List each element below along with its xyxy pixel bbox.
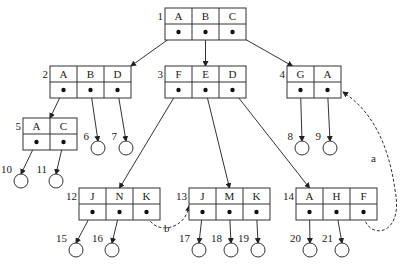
pointer-dot xyxy=(298,88,302,92)
node-key: D xyxy=(229,68,237,80)
leaf-number: 21 xyxy=(322,232,333,244)
pointer-dot xyxy=(144,210,148,214)
pointer-dot xyxy=(230,88,234,92)
node-key: A xyxy=(33,120,41,132)
leaf-21: 21 xyxy=(322,232,349,257)
edge-3-0-to-12 xyxy=(120,90,179,188)
node-key: H xyxy=(333,190,341,202)
node-key: F xyxy=(360,190,366,202)
pointer-dot xyxy=(200,210,204,214)
node-number: 13 xyxy=(176,190,188,202)
leaf-number: 6 xyxy=(84,130,90,142)
node-key: C xyxy=(229,10,236,22)
leaf-16: 16 xyxy=(92,232,119,257)
leaf-10: 10 xyxy=(1,163,28,188)
node-key: A xyxy=(60,68,68,80)
tree-node-1: 1ABC xyxy=(158,8,247,40)
node-key: N xyxy=(116,190,124,202)
pointer-dot xyxy=(203,30,207,34)
leaf-number: 18 xyxy=(211,232,223,244)
node-key: M xyxy=(225,190,235,202)
node-key: A xyxy=(175,10,183,22)
pointer-dot xyxy=(34,140,38,144)
node-number: 4 xyxy=(280,68,286,80)
pointer-dot xyxy=(325,88,329,92)
tree-node-5: 5AC xyxy=(16,118,78,150)
tree-node-2: 2ABD xyxy=(43,66,132,98)
node-number: 12 xyxy=(66,190,77,202)
leaf-number: 15 xyxy=(56,232,68,244)
leaf-number: 8 xyxy=(288,130,294,142)
node-key: C xyxy=(60,120,67,132)
node-key: A xyxy=(306,190,314,202)
tree-node-12: 12JNK xyxy=(66,188,160,220)
node-key: G xyxy=(297,68,305,80)
node-number: 2 xyxy=(43,68,49,80)
pointer-dot xyxy=(230,30,234,34)
node-number: 14 xyxy=(283,190,295,202)
leaf-11: 11 xyxy=(36,163,63,188)
node-key: K xyxy=(253,190,261,202)
leaf-6: 6 xyxy=(84,130,106,155)
tree-node-14: 14AHF xyxy=(283,188,377,220)
leaf-number: 16 xyxy=(92,232,104,244)
leaf-number: 20 xyxy=(290,232,302,244)
pointer-dot xyxy=(176,30,180,34)
leaf-number: 10 xyxy=(1,163,13,175)
pointer-dot xyxy=(176,88,180,92)
b-tree-diagram: ab 1ABC2ABD3FED4GA5AC12JNK13JMK14AHF 678… xyxy=(0,0,407,266)
node-key: A xyxy=(324,68,332,80)
pointer-dot xyxy=(88,88,92,92)
node-key: F xyxy=(175,68,181,80)
node-key: D xyxy=(114,68,122,80)
node-number: 3 xyxy=(158,68,164,80)
node-number: 5 xyxy=(16,120,22,132)
pointer-dot xyxy=(307,210,311,214)
node-number: 1 xyxy=(158,10,164,22)
tree-node-13: 13JMK xyxy=(176,188,270,220)
leaf-number: 7 xyxy=(112,130,118,142)
pointer-dot xyxy=(254,210,258,214)
pointer-dot xyxy=(334,210,338,214)
link-label-b: b xyxy=(164,222,170,234)
pointer-dot xyxy=(117,210,121,214)
leaf-19: 19 xyxy=(238,232,265,257)
leaf-17: 17 xyxy=(179,232,206,257)
node-key: J xyxy=(200,190,205,202)
nodes: 1ABC2ABD3FED4GA5AC12JNK13JMK14AHF xyxy=(16,8,378,220)
node-key: K xyxy=(143,190,151,202)
pointer-dot xyxy=(115,88,119,92)
leaf-number: 19 xyxy=(238,232,250,244)
pointer-dot xyxy=(361,210,365,214)
leaf-7: 7 xyxy=(112,130,134,155)
pointer-dot xyxy=(61,140,65,144)
node-key: J xyxy=(90,190,95,202)
leaf-18: 18 xyxy=(211,232,238,257)
edge-3-1-to-13 xyxy=(206,90,230,188)
leaf-9: 9 xyxy=(316,130,338,155)
leaf-number: 17 xyxy=(179,232,191,244)
node-key: B xyxy=(202,10,209,22)
leaf-number: 11 xyxy=(36,163,47,175)
pointer-dot xyxy=(227,210,231,214)
leaf-8: 8 xyxy=(288,130,310,155)
node-key: B xyxy=(87,68,94,80)
pointer-dot xyxy=(61,88,65,92)
pointer-dot xyxy=(203,88,207,92)
tree-node-4: 4GA xyxy=(280,66,342,98)
leaf-15: 15 xyxy=(56,232,83,257)
link-label-a: a xyxy=(371,152,376,164)
leaf-number: 9 xyxy=(316,130,322,142)
edge-3-2-to-14 xyxy=(233,90,310,188)
node-key: E xyxy=(202,68,209,80)
pointer-dot xyxy=(90,210,94,214)
tree-node-3: 3FED xyxy=(158,66,247,98)
leaf-20: 20 xyxy=(290,232,317,257)
